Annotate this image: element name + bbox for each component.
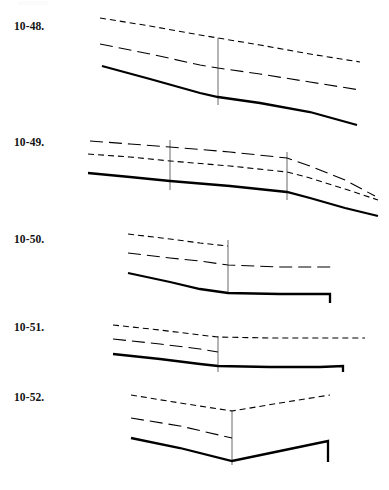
figure-svg-10-50: [0, 225, 389, 315]
series-upper-short-dash: [131, 395, 330, 411]
series-lower-solid: [131, 438, 328, 462]
series-upper-short-dash: [128, 234, 228, 246]
figure-svg-10-52: [0, 385, 389, 490]
series-group-10-51: [113, 325, 365, 372]
figure-10-52: 10-52.: [0, 385, 389, 490]
figure-canvas-10-52: [0, 385, 389, 490]
series-upper-long-dash: [90, 141, 375, 196]
series-lower-solid: [113, 354, 343, 372]
figure-svg-10-51: [0, 315, 389, 385]
figure-svg-10-48: [0, 0, 389, 130]
figure-canvas-10-51: [0, 315, 389, 385]
series-upper-short-dash: [113, 325, 365, 338]
series-lower-solid: [128, 273, 330, 303]
figure-canvas-10-48: [0, 0, 389, 130]
figure-10-50: 10-50.: [0, 225, 389, 315]
series-group-10-52: [131, 395, 330, 465]
figure-canvas-10-50: [0, 225, 389, 315]
series-middle-long-dash: [128, 253, 335, 267]
series-middle-long-dash: [131, 418, 232, 438]
figure-canvas-10-49: [0, 130, 389, 225]
series-lower-solid: [88, 173, 378, 216]
series-group-10-49: [88, 140, 378, 216]
series-lower-solid: [102, 66, 357, 125]
figure-page: 10-48. 10-49. 10-50. 10-51.: [0, 0, 389, 490]
figure-svg-10-49: [0, 130, 389, 225]
figure-10-51: 10-51.: [0, 315, 389, 385]
series-middle-long-dash: [113, 339, 218, 352]
series-middle-long-dash: [100, 44, 360, 90]
series-group-10-48: [100, 18, 360, 125]
series-upper-short-dash: [100, 18, 360, 62]
series-group-10-50: [128, 234, 335, 303]
figure-10-49: 10-49.: [0, 130, 389, 225]
figure-10-48: 10-48.: [0, 0, 389, 130]
